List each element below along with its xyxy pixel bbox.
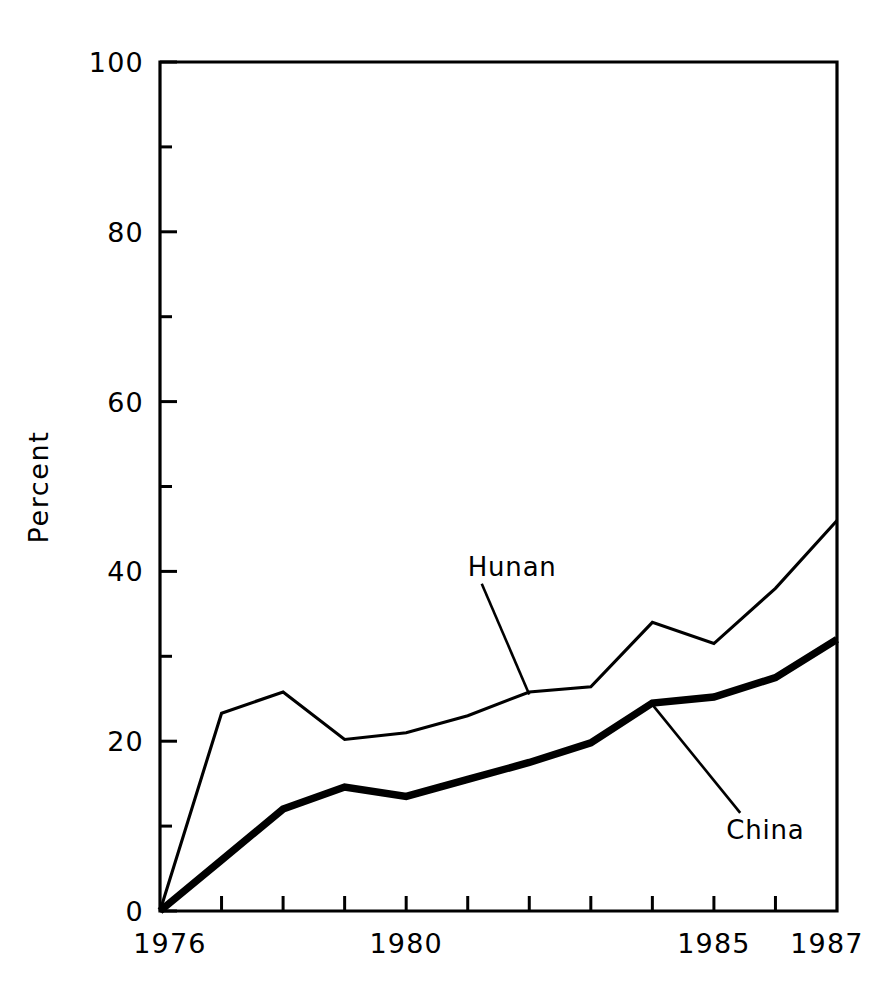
- series-line-china: [160, 639, 837, 911]
- x-tick-label: 1987: [790, 928, 864, 959]
- y-axis-tick-labels: 020406080100: [89, 47, 144, 927]
- y-tick-label: 20: [107, 726, 144, 757]
- chart-svg: 020406080100 1976198019851987 Percent Hu…: [0, 0, 888, 992]
- y-tick-label: 0: [126, 896, 144, 927]
- series-annotations: HunanChina: [468, 552, 805, 845]
- y-tick-label: 100: [89, 47, 144, 78]
- series-label-china: China: [726, 815, 804, 845]
- y-axis-title: Percent: [23, 431, 54, 544]
- plot-frame: [160, 62, 837, 911]
- x-tick-label: 1976: [133, 928, 207, 959]
- x-axis-ticks: [222, 896, 776, 911]
- leader-line-china: [652, 705, 740, 813]
- leader-line-hunan: [482, 584, 530, 695]
- y-tick-label: 40: [107, 556, 144, 587]
- y-axis-ticks: [160, 62, 177, 911]
- axis-spines: [160, 62, 837, 911]
- y-tick-label: 60: [107, 387, 144, 418]
- x-tick-label: 1980: [369, 928, 443, 959]
- y-tick-label: 80: [107, 217, 144, 248]
- x-tick-label: 1985: [677, 928, 751, 959]
- series-label-hunan: Hunan: [468, 552, 557, 582]
- x-axis-tick-labels: 1976198019851987: [133, 928, 864, 959]
- chart-figure: 020406080100 1976198019851987 Percent Hu…: [0, 0, 888, 992]
